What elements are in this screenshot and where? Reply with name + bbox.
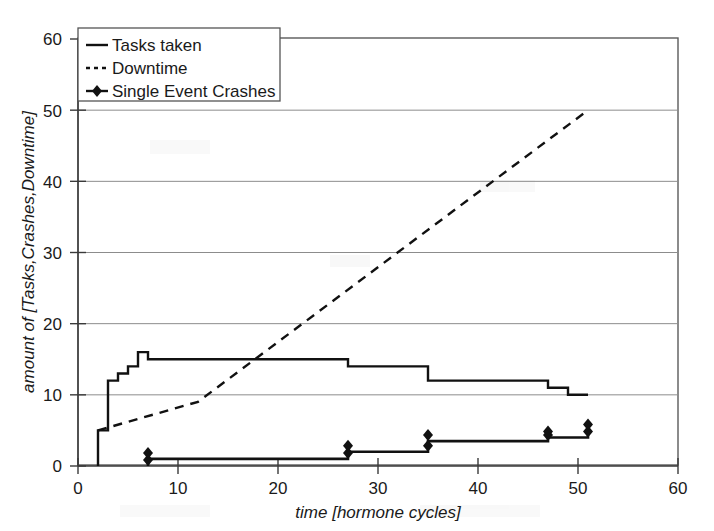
plot-frame (78, 38, 678, 465)
chart-legend: Tasks taken Downtime Single Event Crashe… (78, 28, 280, 101)
y-tick-label-20: 20 (43, 315, 62, 334)
y-axis-title: amount of [Tasks,Crashes,Downtime] (19, 110, 38, 393)
x-tick-label-20: 20 (269, 479, 288, 498)
y-tick-label-10: 10 (43, 386, 62, 405)
y-tick-label-30: 30 (43, 244, 62, 263)
scan-artifacts (120, 140, 540, 517)
x-axis-title: time [hormone cycles] (295, 503, 462, 522)
y-tick-label-40: 40 (43, 173, 62, 192)
x-tick-label-40: 40 (469, 479, 488, 498)
x-tick-label-50: 50 (569, 479, 588, 498)
x-tick-label-30: 30 (369, 479, 388, 498)
chart-figure: 0 10 20 30 40 50 60 0 10 20 30 40 50 60 … (0, 0, 714, 531)
series-downtime (98, 110, 588, 430)
legend-item-single-event-crashes[interactable]: Single Event Crashes (86, 82, 275, 101)
y-tick-label-0: 0 (53, 457, 62, 476)
x-tick-label-60: 60 (669, 479, 688, 498)
x-tick-label-0: 0 (73, 479, 82, 498)
series-single-event-crashes (143, 418, 593, 466)
legend-item-label: Downtime (112, 59, 188, 78)
y-tick-label-50: 50 (43, 102, 62, 121)
legend-item-label: Tasks taken (112, 36, 202, 55)
y-tick-label-60: 60 (43, 30, 62, 49)
legend-item-label: Single Event Crashes (112, 82, 275, 101)
x-tick-label-10: 10 (169, 479, 188, 498)
series-tasks-taken (98, 352, 588, 466)
chart-canvas: 0 10 20 30 40 50 60 0 10 20 30 40 50 60 … (0, 0, 714, 531)
